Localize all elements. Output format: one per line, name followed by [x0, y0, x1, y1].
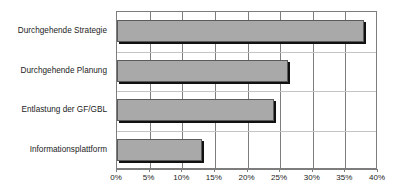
y-axis-tick-label: Entlastung der GF/GBL [21, 105, 110, 114]
x-axis-tick-mark [312, 169, 313, 172]
x-axis-tick-label: 15% [206, 173, 222, 182]
bar-row [117, 52, 378, 92]
y-axis-label-row: Durchgehende Planung [0, 51, 110, 91]
y-axis-label-row: Entlastung der GF/GBL [0, 90, 110, 130]
x-axis-tick-mark [377, 169, 378, 172]
bar[interactable] [117, 139, 202, 161]
y-axis-tick-label: Informationsplattform [30, 145, 110, 154]
x-axis-tick-mark [116, 169, 117, 172]
bar[interactable] [117, 60, 288, 82]
x-axis-tick-label: 25% [271, 173, 287, 182]
x-axis-tick-mark [344, 169, 345, 172]
x-axis-tick-label: 40% [369, 173, 385, 182]
y-axis-label-row: Durchgehende Strategie [0, 11, 110, 51]
bar-row [117, 12, 378, 52]
y-axis-category-labels: Durchgehende Strategie Durchgehende Plan… [0, 11, 113, 169]
bar[interactable] [117, 99, 274, 121]
x-axis-tick-mark [279, 169, 280, 172]
y-axis-label-row: Informationsplattform [0, 130, 110, 170]
bar-row [117, 131, 378, 171]
x-axis-tick-label: 20% [238, 173, 254, 182]
x-axis-tick-mark [247, 169, 248, 172]
x-axis-tick-label: 35% [336, 173, 352, 182]
bar-chart: Durchgehende Strategie Durchgehende Plan… [0, 0, 396, 196]
bar[interactable] [117, 20, 364, 42]
y-axis-tick-label: Durchgehende Strategie [18, 26, 110, 35]
x-axis-tick-mark [181, 169, 182, 172]
x-axis-tick-label: 30% [304, 173, 320, 182]
x-axis-tick-mark [214, 169, 215, 172]
x-axis-tick-mark [149, 169, 150, 172]
x-axis-tick-label: 5% [143, 173, 155, 182]
x-axis-tick-label: 10% [173, 173, 189, 182]
bar-row [117, 91, 378, 131]
y-axis-tick-label: Durchgehende Planung [21, 66, 110, 75]
x-axis-tick-label: 0% [110, 173, 122, 182]
plot-area [116, 11, 377, 169]
